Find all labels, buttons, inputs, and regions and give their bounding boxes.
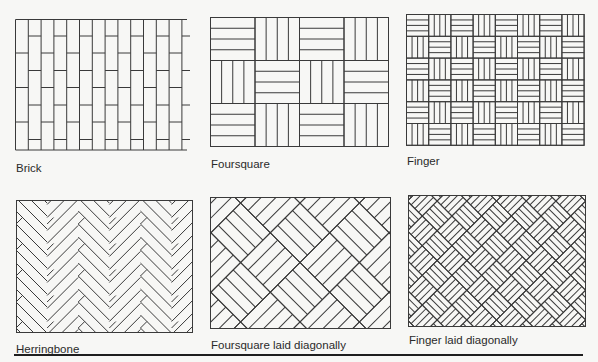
brick-pattern-drawing <box>15 19 190 151</box>
finger-label: Finger <box>407 155 440 167</box>
foursquare-diagonal-pattern <box>210 197 391 329</box>
foursquare-diagonal-pattern-drawing <box>210 197 391 329</box>
finger-diagonal-pattern-drawing <box>408 195 586 327</box>
foursquare-label: Foursquare <box>211 158 270 170</box>
herringbone-pattern-drawing <box>16 200 193 333</box>
brick-pattern <box>15 19 190 151</box>
foursquare-diagonal-label: Foursquare laid diagonally <box>211 339 346 351</box>
finger-pattern-drawing <box>406 14 586 146</box>
herringbone-pattern <box>16 200 193 333</box>
foursquare-pattern <box>210 17 390 147</box>
brick-label: Brick <box>16 162 42 174</box>
bottom-rule <box>14 354 583 356</box>
finger-diagonal-pattern <box>408 195 586 327</box>
foursquare-pattern-drawing <box>210 17 390 147</box>
finger-pattern <box>406 14 586 146</box>
finger-diagonal-label: Finger laid diagonally <box>409 334 518 346</box>
